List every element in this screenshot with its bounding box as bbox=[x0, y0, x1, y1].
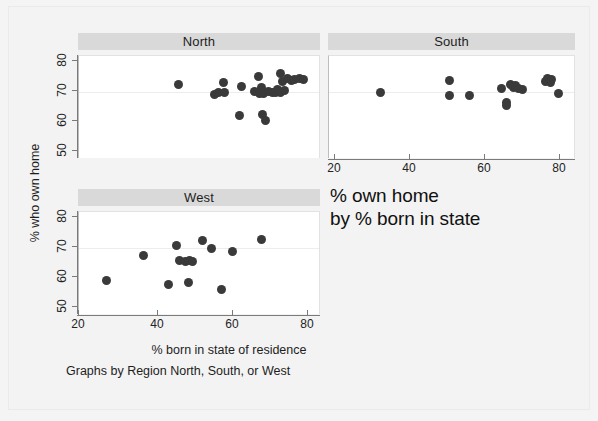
data-point bbox=[188, 257, 197, 266]
x-axis-title: % born in state of residence bbox=[139, 343, 319, 357]
data-point bbox=[102, 276, 111, 285]
panel-title-west: West bbox=[78, 189, 320, 206]
plot-area-west[interactable] bbox=[78, 211, 320, 314]
x-tick-80-west bbox=[307, 310, 308, 315]
y-tick-50-west bbox=[72, 306, 77, 307]
y-tick-label-70-north: 70 bbox=[55, 77, 69, 103]
x-tick-label-60-west: 60 bbox=[217, 317, 247, 331]
x-tick-20-south bbox=[334, 154, 335, 159]
x-axis-line-west bbox=[77, 315, 320, 316]
x-tick-40-west bbox=[157, 310, 158, 315]
data-point bbox=[465, 91, 474, 100]
data-point bbox=[207, 244, 216, 253]
data-point bbox=[445, 76, 454, 85]
data-point bbox=[139, 251, 148, 260]
y-tick-80-north bbox=[72, 60, 77, 61]
figure-root: % who own home North 80 70 60 50 South bbox=[0, 0, 598, 421]
y-tick-50-north bbox=[72, 150, 77, 151]
y-tick-label-70-west: 70 bbox=[55, 233, 69, 259]
data-point bbox=[376, 88, 385, 97]
y-tick-label-60-north: 60 bbox=[55, 107, 69, 133]
data-point bbox=[497, 84, 506, 93]
data-point bbox=[554, 89, 563, 98]
data-point bbox=[174, 80, 183, 89]
data-point bbox=[172, 241, 181, 250]
x-tick-label-40-south: 40 bbox=[394, 161, 424, 175]
data-point bbox=[276, 88, 285, 97]
gridline-70 bbox=[79, 248, 319, 249]
x-tick-label-60-south: 60 bbox=[469, 161, 499, 175]
panel-title-south: South bbox=[328, 33, 575, 50]
panel-title-north: North bbox=[78, 33, 320, 50]
data-point bbox=[220, 88, 229, 97]
x-tick-20-west bbox=[78, 310, 79, 315]
data-point bbox=[198, 236, 207, 245]
x-tick-60-south bbox=[484, 154, 485, 159]
y-tick-60-west bbox=[72, 276, 77, 277]
x-tick-label-20-west: 20 bbox=[63, 317, 93, 331]
x-tick-label-80-south: 80 bbox=[544, 161, 574, 175]
data-point bbox=[217, 285, 226, 294]
plot-area-north[interactable] bbox=[78, 55, 320, 158]
y-tick-label-60-west: 60 bbox=[55, 263, 69, 289]
y-axis-line-west bbox=[77, 211, 78, 314]
y-tick-label-80-west: 80 bbox=[55, 203, 69, 229]
x-tick-40-south bbox=[409, 154, 410, 159]
y-tick-60-north bbox=[72, 120, 77, 121]
data-point bbox=[237, 82, 246, 91]
x-axis-line-south bbox=[328, 159, 575, 160]
data-point bbox=[502, 101, 511, 110]
y-tick-label-50-north: 50 bbox=[55, 137, 69, 163]
x-tick-60-west bbox=[232, 310, 233, 315]
data-point bbox=[445, 91, 454, 100]
y-axis-title: % who own home bbox=[28, 138, 42, 248]
data-point bbox=[254, 72, 263, 81]
y-tick-70-north bbox=[72, 90, 77, 91]
data-point bbox=[299, 75, 308, 84]
note-line-1: % own home bbox=[330, 184, 439, 207]
x-tick-label-80-west: 80 bbox=[292, 317, 322, 331]
y-tick-80-west bbox=[72, 216, 77, 217]
data-point bbox=[250, 87, 259, 96]
x-tick-label-20-south: 20 bbox=[319, 161, 349, 175]
data-point bbox=[257, 235, 266, 244]
data-point bbox=[228, 247, 237, 256]
x-tick-80-south bbox=[559, 154, 560, 159]
data-point bbox=[184, 278, 193, 287]
figure-caption: Graphs by Region North, South, or West bbox=[66, 364, 290, 378]
x-tick-label-40-west: 40 bbox=[142, 317, 172, 331]
data-point bbox=[261, 116, 270, 125]
data-point bbox=[164, 280, 173, 289]
plot-area-south[interactable] bbox=[328, 55, 575, 158]
note-line-2: by % born in state bbox=[330, 207, 480, 230]
data-point bbox=[235, 111, 244, 120]
data-point bbox=[219, 78, 228, 87]
figure-canvas: % who own home North 80 70 60 50 South bbox=[8, 6, 590, 410]
y-axis-line-north bbox=[77, 55, 78, 158]
data-point bbox=[547, 75, 556, 84]
y-tick-70-west bbox=[72, 246, 77, 247]
y-tick-label-50-west: 50 bbox=[55, 293, 69, 319]
y-tick-label-80-north: 80 bbox=[55, 47, 69, 73]
